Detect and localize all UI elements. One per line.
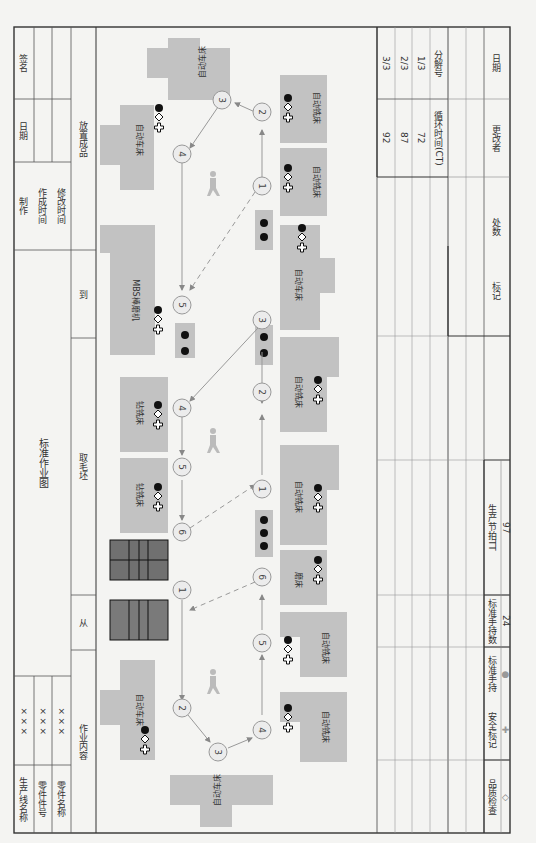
svg-text:自动铣床: 自动铣床 <box>294 481 304 513</box>
svg-text:钻铣床: 钻铣床 <box>135 483 145 507</box>
svg-text:自动铣床: 自动铣床 <box>294 376 304 408</box>
svg-text:钻铣床: 钻铣床 <box>135 401 145 425</box>
svg-text:2: 2 <box>177 705 187 711</box>
svg-text:自动车床: 自动车床 <box>135 124 145 156</box>
svg-text:5: 5 <box>177 464 187 470</box>
svg-text:自动车床: 自动车床 <box>197 46 207 78</box>
svg-text:自动铣床: 自动铣床 <box>321 711 331 743</box>
step-circles <box>173 91 271 761</box>
svg-text:自动车床: 自动车床 <box>294 269 304 301</box>
svg-text:自动铣床: 自动铣床 <box>312 92 322 124</box>
svg-text:6: 6 <box>177 529 187 535</box>
svg-text:1: 1 <box>257 486 267 492</box>
svg-text:自动车床: 自动车床 <box>135 694 145 726</box>
svg-text:2: 2 <box>257 389 267 395</box>
return-paths <box>190 192 255 610</box>
standard-work-chart: 签名 日期 制作 作成时间 修改时间 标准作业图 ××× ××× ××× 生产线… <box>0 0 536 843</box>
svg-text:3: 3 <box>213 749 223 755</box>
layout-diagram: 1 2 3 4 5 2 3 4 5 6 1 1 2 3 4 5 6 自动车床 <box>0 0 536 843</box>
svg-text:自动铣床: 自动铣床 <box>312 166 322 198</box>
svg-text:MBS棒磨机: MBS棒磨机 <box>131 279 141 320</box>
svg-text:3: 3 <box>257 317 267 323</box>
step-labels: 1 2 3 4 5 2 3 4 5 6 1 1 2 3 4 5 6 <box>177 97 267 755</box>
svg-text:5: 5 <box>257 640 267 646</box>
wip-dots <box>181 219 268 550</box>
svg-text:磨床: 磨床 <box>294 572 304 588</box>
svg-text:2: 2 <box>257 109 267 115</box>
svg-text:5: 5 <box>177 302 187 308</box>
svg-text:1: 1 <box>257 183 267 189</box>
svg-text:4: 4 <box>177 151 187 157</box>
svg-text:自动车床: 自动车床 <box>212 774 222 806</box>
svg-text:4: 4 <box>177 405 187 411</box>
operator-icons <box>207 171 220 694</box>
svg-text:1: 1 <box>177 587 187 593</box>
svg-text:3: 3 <box>217 97 227 103</box>
raw-material-stock <box>110 540 168 640</box>
svg-text:自动铣床: 自动铣床 <box>321 632 331 664</box>
svg-text:6: 6 <box>257 574 267 580</box>
svg-text:4: 4 <box>257 727 267 733</box>
